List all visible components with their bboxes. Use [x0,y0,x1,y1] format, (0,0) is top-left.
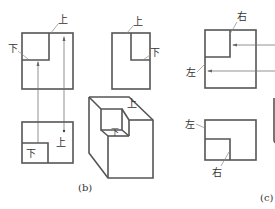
caption-b: (b) [78,182,92,193]
panel-c: 右 左 左 右 (c) [185,10,275,203]
panel-b-lower-view: 上 下 [22,122,73,163]
caption-c: (c) [260,192,274,203]
arrow-left-icon [207,70,212,73]
label-right: 右 [237,10,247,22]
label-down: 下 [8,43,18,54]
panel-b: 上 下 上 下 上 下 [8,14,160,193]
panel-b-upper-view: 上 下 [8,14,73,89]
label-left: 左 [185,118,195,130]
label-right: 右 [212,166,222,178]
arrow-up-icon [63,36,66,41]
label-left: 左 [186,66,196,78]
label-down: 下 [111,128,119,137]
partial-shape [274,98,275,143]
panel-b-side-view: 上 下 [112,16,160,89]
label-up: 上 [127,98,137,109]
label-up: 上 [133,16,143,27]
orthographic-projection-diagram: 上 下 上 下 上 下 [0,0,275,209]
panel-c-upper-view: 右 左 [186,10,275,88]
label-up: 上 [56,137,66,148]
label-down: 下 [26,148,36,159]
arrow-left-icon [232,44,237,47]
panel-b-isometric-view: 上 下 [89,97,153,178]
panel-c-lower-view: 左 右 [185,118,256,178]
arrow-up-icon [37,61,40,66]
label-down: 下 [150,47,160,58]
label-up: 上 [58,14,68,25]
